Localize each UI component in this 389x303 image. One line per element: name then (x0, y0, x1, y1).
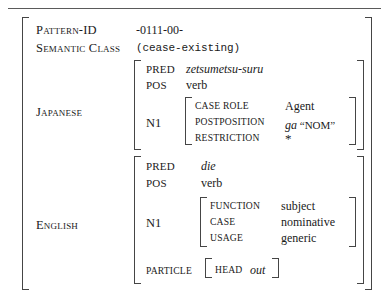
value-pattern-id: -0111-00- (136, 24, 183, 36)
value-case: nominative (281, 216, 335, 228)
attr-postposition: POSTPOSITION (195, 117, 265, 127)
attr-usage: USAGE (210, 233, 243, 243)
avm-figure: Pattern-ID -0111-00- Semantic Class (cea… (0, 0, 389, 303)
attr-function: FUNCTION (210, 201, 260, 211)
japanese-n1-right-bracket (349, 97, 356, 145)
attr-english-pos: POS (146, 178, 167, 189)
attr-pattern-id: Pattern-ID (36, 24, 97, 37)
attr-japanese: Japanese (36, 106, 82, 119)
value-restriction: * (285, 132, 292, 145)
attr-case-role: CASE ROLE (195, 101, 249, 111)
value-japanese-pos: verb (186, 79, 207, 91)
japanese-right-bracket (356, 60, 364, 150)
value-english-pos: verb (201, 177, 222, 189)
attr-japanese-n1: N1 (146, 117, 161, 130)
attr-particle: PARTICLE (146, 266, 192, 276)
attr-english-pred: PRED (146, 161, 175, 172)
value-semantic-class: (cease-existing) (136, 43, 240, 54)
attr-semantic-class: Semantic Class (36, 42, 120, 55)
value-usage: generic (281, 232, 316, 244)
value-case-role: Agent (285, 100, 314, 112)
attr-english: English (36, 219, 78, 232)
attr-case: CASE (210, 217, 235, 227)
english-right-bracket (356, 156, 364, 284)
attr-restriction: RESTRICTION (195, 133, 260, 143)
value-postposition: ga “NOM” (285, 116, 335, 132)
english-left-bracket (134, 156, 142, 284)
english-n1-right-bracket (349, 197, 356, 247)
attr-japanese-pos: POS (146, 80, 167, 91)
japanese-n1-left-bracket (185, 97, 192, 145)
japanese-left-bracket (134, 60, 142, 150)
outer-left-bracket (22, 17, 30, 290)
attr-japanese-pred: PRED (146, 64, 175, 75)
value-function: subject (281, 200, 315, 212)
value-postposition-gloss: “NOM” (297, 119, 335, 131)
attr-english-n1: N1 (146, 217, 161, 230)
attr-head: HEAD (215, 265, 242, 275)
value-postposition-particle: ga (285, 118, 297, 132)
particle-left-bracket (205, 258, 212, 278)
value-english-pred: die (201, 160, 216, 172)
top-horizontal-rule (8, 8, 381, 9)
particle-right-bracket (272, 258, 279, 278)
english-n1-left-bracket (200, 197, 207, 247)
value-head: out (250, 264, 265, 276)
value-japanese-pred: zetsumetsu-suru (186, 63, 263, 75)
outer-right-bracket (364, 17, 372, 290)
